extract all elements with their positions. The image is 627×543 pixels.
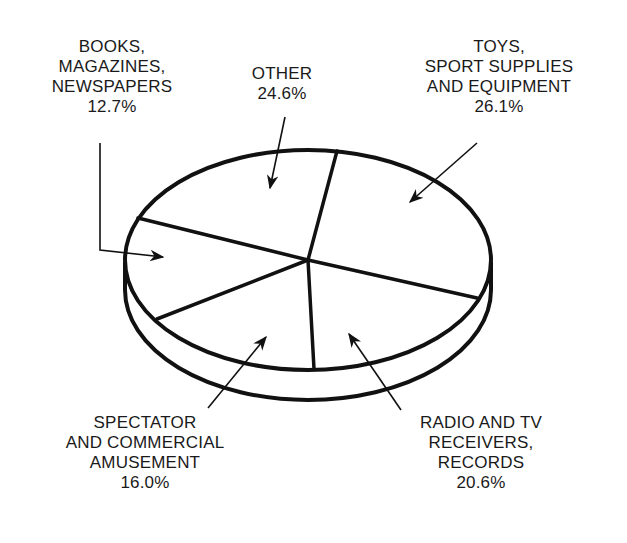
- label-other: OTHER 24.6%: [242, 64, 322, 104]
- pie-chart: BOOKS, MAGAZINES, NEWSPAPERS 12.7% OTHER…: [0, 0, 627, 543]
- label-line: BOOKS,: [30, 37, 194, 57]
- label-line: AND EQUIPMENT: [396, 77, 602, 97]
- label-line: AMUSEMENT: [36, 453, 254, 473]
- label-line: AND COMMERCIAL: [36, 433, 254, 453]
- label-line: OTHER: [242, 64, 322, 84]
- label-value: 24.6%: [242, 84, 322, 104]
- label-line: NEWSPAPERS: [30, 77, 194, 97]
- label-line: RECEIVERS,: [396, 433, 566, 453]
- label-line: SPECTATOR: [36, 413, 254, 433]
- label-value: 20.6%: [396, 473, 566, 493]
- label-radio-tv-receivers-records: RADIO AND TV RECEIVERS, RECORDS 20.6%: [396, 413, 566, 493]
- label-spectator-commercial-amusement: SPECTATOR AND COMMERCIAL AMUSEMENT 16.0%: [36, 413, 254, 493]
- label-value: 16.0%: [36, 473, 254, 493]
- label-line: TOYS,: [396, 37, 602, 57]
- label-line: SPORT SUPPLIES: [396, 57, 602, 77]
- label-value: 26.1%: [396, 97, 602, 117]
- label-line: MAGAZINES,: [30, 57, 194, 77]
- label-books-magazines-newspapers: BOOKS, MAGAZINES, NEWSPAPERS 12.7%: [30, 37, 194, 117]
- label-value: 12.7%: [30, 97, 194, 117]
- label-toys-sport-supplies: TOYS, SPORT SUPPLIES AND EQUIPMENT 26.1%: [396, 37, 602, 117]
- label-line: RECORDS: [396, 453, 566, 473]
- label-line: RADIO AND TV: [396, 413, 566, 433]
